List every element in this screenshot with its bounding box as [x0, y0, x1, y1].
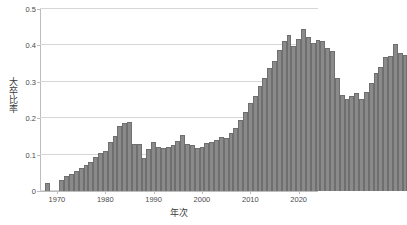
x-tick-mark: [202, 191, 203, 194]
x-tick-label: 2020: [290, 195, 307, 204]
y-tick-mark: [37, 45, 40, 46]
x-tick-label: 1980: [97, 195, 114, 204]
x-tick-mark: [57, 191, 58, 194]
x-tick-label: 1990: [145, 195, 162, 204]
y-axis-tick-labels: 00.10.20.30.40.5: [18, 0, 36, 225]
y-tick-label: 0.4: [18, 41, 36, 50]
x-tick-mark: [299, 191, 300, 194]
y-tick-mark: [37, 118, 40, 119]
y-tick-label: 0.2: [18, 114, 36, 123]
y-tick-mark: [37, 9, 40, 10]
y-tick-label: 0.1: [18, 150, 36, 159]
x-tick-label: 2000: [194, 195, 211, 204]
y-tick-mark: [37, 82, 40, 83]
bar: [45, 183, 50, 191]
x-axis-tick-labels: 197019801990200020102020: [40, 191, 318, 207]
bar-series: [40, 9, 318, 191]
y-tick-mark: [37, 155, 40, 156]
x-axis-title: 年次: [40, 206, 318, 219]
y-tick-label: 0.3: [18, 77, 36, 86]
y-tick-label: 0.5: [18, 5, 36, 14]
y-tick-label: 0: [18, 187, 36, 196]
x-tick-label: 1970: [49, 195, 66, 204]
x-tick-mark: [250, 191, 251, 194]
plot-area: [40, 9, 318, 191]
bar: [403, 55, 407, 191]
y-tick-mark: [37, 191, 40, 192]
x-tick-mark: [154, 191, 155, 194]
x-tick-mark: [105, 191, 106, 194]
x-tick-label: 2010: [242, 195, 259, 204]
